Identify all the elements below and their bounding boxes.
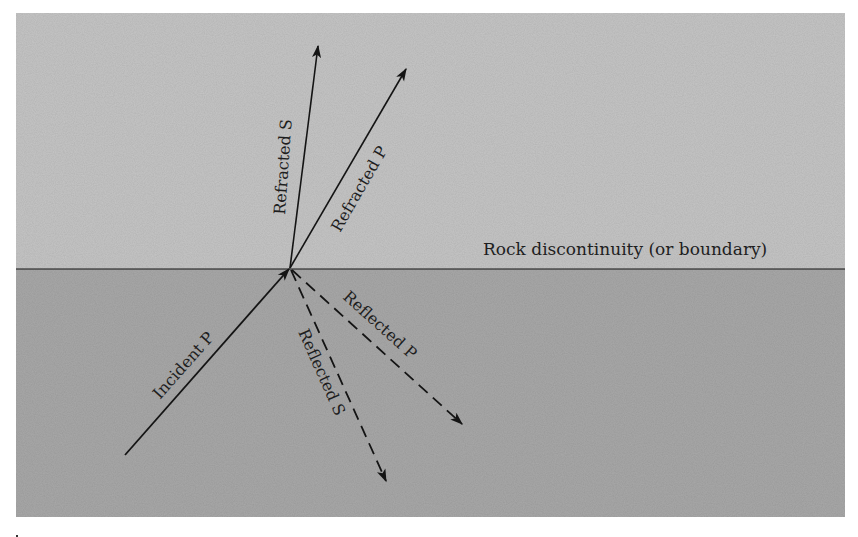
paper-texture — [16, 13, 845, 517]
boundary-label: Rock discontinuity (or boundary) — [483, 239, 767, 259]
seismic-wave-diagram: Rock discontinuity (or boundary) Refract… — [0, 0, 858, 537]
diagram-canvas: Rock discontinuity (or boundary) Refract… — [0, 0, 858, 537]
